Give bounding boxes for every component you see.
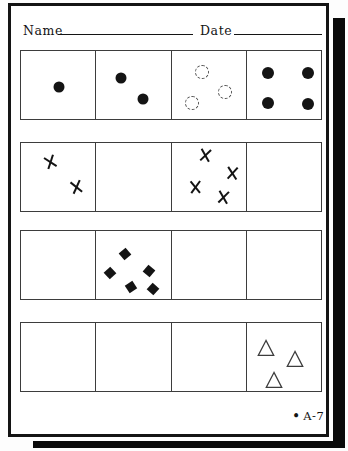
date-blank-line <box>234 34 322 35</box>
grid-cell <box>96 323 171 391</box>
triangle <box>265 371 283 389</box>
date-label: Date <box>200 24 232 37</box>
grid-cell <box>96 51 171 119</box>
triangle <box>257 339 275 357</box>
x-mark <box>188 180 201 193</box>
worksheet-page: Name Date <box>8 3 329 437</box>
x-mark <box>42 154 58 170</box>
dashed-circle <box>195 65 209 79</box>
grid-cell <box>247 143 321 211</box>
grid-cell <box>247 231 321 299</box>
x-mark <box>198 149 211 162</box>
page-code-label: A-7 <box>303 410 324 422</box>
triangle <box>286 350 304 368</box>
dot <box>262 67 274 79</box>
grid-cell <box>172 323 247 391</box>
grid-cell <box>21 51 96 119</box>
diamond <box>147 283 160 296</box>
scanned-worksheet: Name Date <box>0 0 348 451</box>
shape-grid-row-3 <box>20 230 322 300</box>
grid-cell <box>172 51 247 119</box>
dot <box>54 82 65 93</box>
page-content: Name Date <box>11 6 326 434</box>
dot <box>302 67 314 79</box>
grid-cell <box>172 143 247 211</box>
dot <box>116 73 127 84</box>
grid-cell <box>172 231 247 299</box>
dot <box>262 97 274 109</box>
shape-grid-row-1 <box>20 50 322 120</box>
grid-cell <box>96 231 171 299</box>
grid-cell <box>247 51 321 119</box>
grid-cell <box>21 231 96 299</box>
diamond <box>104 267 117 280</box>
shape-grid-row-4 <box>20 322 322 392</box>
name-label: Name <box>23 24 63 37</box>
bullet-icon: • <box>292 411 300 421</box>
dot <box>138 94 149 105</box>
shape-grid-row-2 <box>20 142 322 212</box>
grid-cell <box>96 143 171 211</box>
name-blank-line <box>58 34 193 35</box>
diamond <box>143 265 156 278</box>
grid-cell <box>21 143 96 211</box>
diamond <box>119 248 132 261</box>
x-mark <box>216 191 229 204</box>
x-mark <box>68 179 83 194</box>
dashed-circle <box>218 85 232 99</box>
dashed-circle <box>185 96 199 110</box>
grid-cell <box>21 323 96 391</box>
page-code: • A-7 <box>292 410 324 422</box>
dot <box>302 98 314 110</box>
diamond <box>125 281 137 293</box>
x-mark <box>227 167 239 179</box>
grid-cell <box>247 323 321 391</box>
